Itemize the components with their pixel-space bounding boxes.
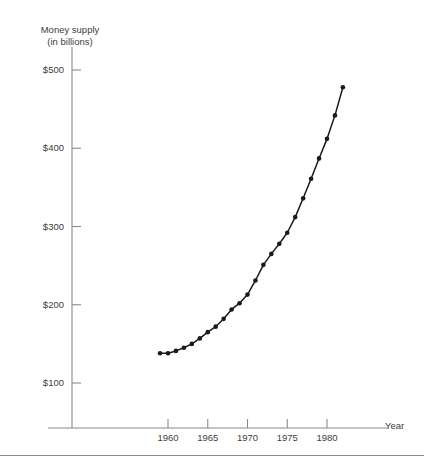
data-point-marker	[237, 301, 242, 306]
data-point-marker	[253, 278, 258, 283]
footer-divider	[0, 455, 424, 456]
data-point-marker	[277, 241, 282, 246]
data-point-marker	[174, 349, 179, 354]
y-axis-ticks	[72, 70, 81, 383]
y-tick-label: $300	[20, 221, 64, 232]
y-tick-label: $500	[20, 64, 64, 75]
data-point-marker	[245, 292, 250, 297]
data-point-marker	[221, 317, 226, 322]
axes	[48, 47, 388, 428]
data-point-marker	[166, 351, 171, 356]
data-point-marker	[301, 196, 306, 201]
y-tick-label: $400	[20, 142, 64, 153]
y-tick-label: $100	[20, 377, 64, 388]
data-point-marker	[293, 215, 298, 220]
data-point-marker	[158, 351, 163, 356]
data-series	[158, 85, 345, 356]
data-point-marker	[333, 113, 338, 118]
data-point-marker	[261, 263, 266, 268]
chart-figure: Money supply(in billions) Year $500$400$…	[0, 0, 424, 466]
x-tick-label: 1970	[228, 432, 268, 443]
series-line	[160, 87, 343, 353]
x-tick-label: 1975	[267, 432, 307, 443]
data-point-marker	[317, 156, 322, 161]
data-point-marker	[229, 307, 234, 312]
x-tick-label: 1980	[307, 432, 347, 443]
x-tick-label: 1960	[148, 432, 188, 443]
x-tick-label: 1965	[188, 432, 228, 443]
x-axis-ticks	[168, 419, 327, 428]
data-point-marker	[285, 230, 290, 235]
data-point-marker	[205, 330, 210, 335]
data-point-marker	[190, 342, 195, 347]
data-point-marker	[341, 85, 346, 90]
y-tick-label: $200	[20, 299, 64, 310]
data-point-marker	[269, 252, 274, 257]
data-point-marker	[309, 176, 314, 181]
data-point-marker	[182, 345, 187, 350]
data-point-marker	[325, 137, 330, 142]
data-point-marker	[198, 336, 203, 341]
data-point-marker	[213, 324, 218, 329]
